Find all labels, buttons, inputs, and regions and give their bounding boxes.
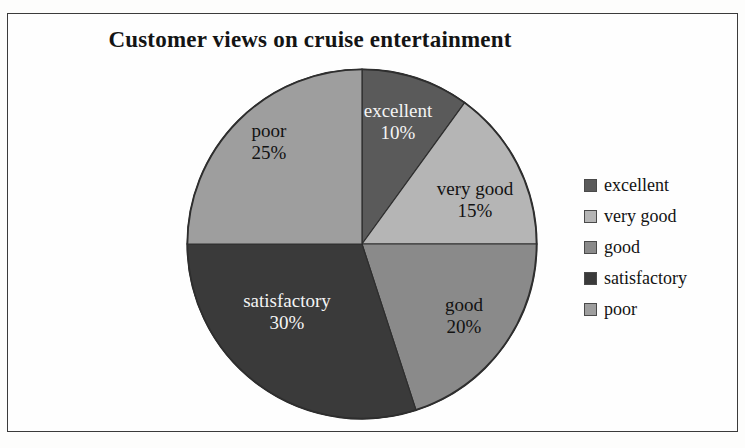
slice-label-poor-name: poor: [252, 120, 287, 141]
slice-label-poor: poor 25%: [214, 120, 324, 163]
slice-label-satisfactory-name: satisfactory: [243, 290, 331, 311]
slice-label-good-value: 20%: [414, 316, 514, 338]
slice-label-good: good 20%: [414, 294, 514, 337]
slice-label-satisfactory-value: 30%: [212, 312, 362, 334]
slice-label-very-good: very good 15%: [412, 178, 538, 221]
legend-label-good: good: [604, 237, 640, 258]
chart-legend: excellentvery goodgoodsatisfactorypoor: [584, 170, 734, 325]
pie-chart: excellent 10% very good 15% good 20% sat…: [186, 68, 538, 420]
chart-page: Customer views on cruise entertainment e…: [0, 0, 745, 448]
legend-label-poor: poor: [604, 299, 637, 320]
legend-swatch-poor: [584, 303, 597, 316]
slice-label-poor-value: 25%: [214, 142, 324, 164]
slice-label-very-good-name: very good: [437, 178, 514, 199]
legend-item-excellent[interactable]: excellent: [584, 170, 734, 201]
slice-label-excellent: excellent 10%: [338, 100, 458, 143]
slice-label-excellent-value: 10%: [338, 122, 458, 144]
legend-label-very-good: very good: [604, 206, 676, 227]
legend-swatch-very-good: [584, 210, 597, 223]
legend-item-poor[interactable]: poor: [584, 294, 734, 325]
slice-label-very-good-value: 15%: [412, 200, 538, 222]
legend-swatch-good: [584, 241, 597, 254]
slice-label-good-name: good: [445, 294, 483, 315]
legend-item-good[interactable]: good: [584, 232, 734, 263]
chart-title: Customer views on cruise entertainment: [0, 27, 620, 53]
legend-label-excellent: excellent: [604, 175, 669, 196]
slice-label-excellent-name: excellent: [364, 100, 433, 121]
legend-label-satisfactory: satisfactory: [604, 268, 687, 289]
slice-label-satisfactory: satisfactory 30%: [212, 290, 362, 333]
legend-item-very-good[interactable]: very good: [584, 201, 734, 232]
legend-swatch-satisfactory: [584, 272, 597, 285]
legend-item-satisfactory[interactable]: satisfactory: [584, 263, 734, 294]
legend-swatch-excellent: [584, 179, 597, 192]
